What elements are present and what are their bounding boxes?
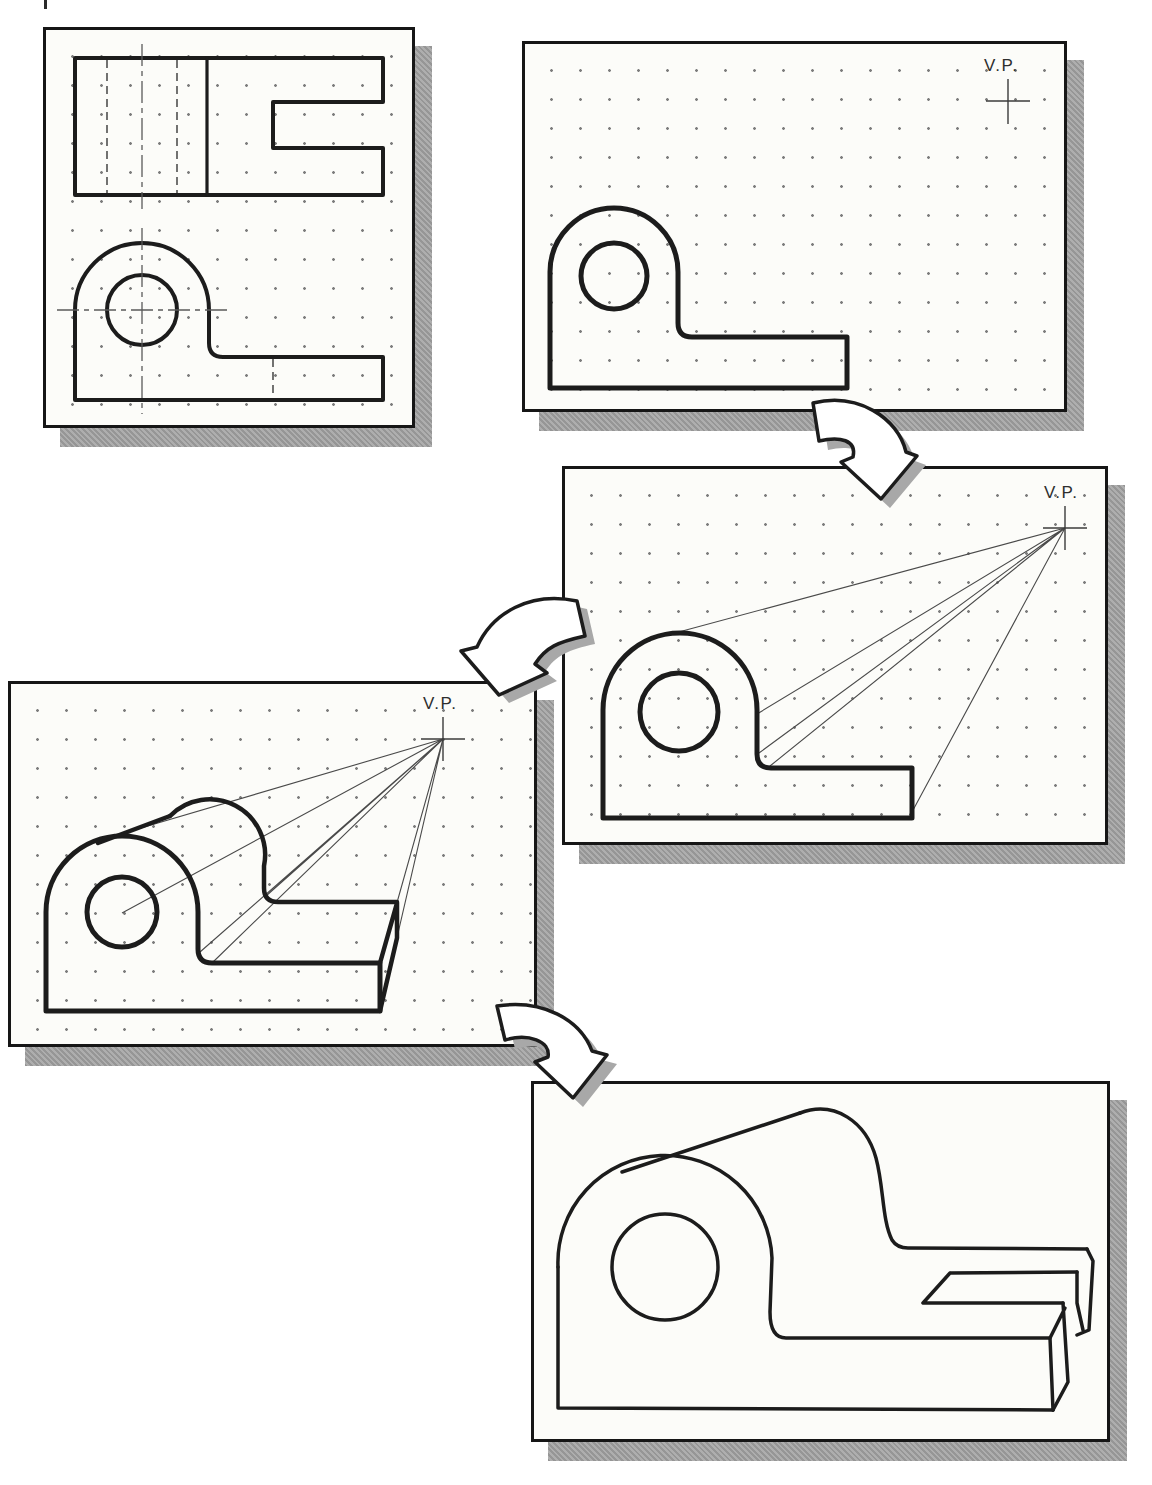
front-view-hole: [87, 877, 157, 947]
panel-depth-construction: [8, 681, 537, 1047]
front-view-outline: [550, 208, 847, 388]
top-view-outline: [75, 58, 383, 195]
vp-label: V.P.: [1044, 483, 1078, 503]
cropped-text-fragment: [44, 0, 47, 9]
front-view-hole: [640, 673, 718, 751]
front-view-outline: [603, 633, 912, 818]
front-view-outline: [75, 243, 383, 400]
figure-page: V.P. V.P. V.P.: [0, 0, 1152, 1485]
vp-cross-icon: [1043, 506, 1087, 550]
vp-label: V.P.: [423, 694, 457, 714]
depth-construction-drawing: [8, 681, 537, 1047]
panel-final-perspective: [531, 1081, 1110, 1442]
vp-label: V.P.: [984, 56, 1018, 76]
final-part-outline: [558, 1109, 1093, 1410]
final-perspective-drawing: [531, 1081, 1110, 1442]
vp-cross-icon: [986, 79, 1030, 124]
panel-front-view-with-vp: [522, 41, 1067, 412]
front-view-centerlines: [57, 228, 228, 414]
projection-lines-drawing: [562, 466, 1108, 845]
front-view-vp-drawing: [522, 41, 1067, 412]
front-view-outline: [46, 836, 380, 1011]
orthographic-views-drawing: [43, 27, 415, 428]
front-view-hole: [581, 243, 647, 309]
panel-projection-lines: [562, 466, 1108, 845]
panel-orthographic-views: [43, 27, 415, 428]
receding-edges: [98, 799, 397, 1011]
